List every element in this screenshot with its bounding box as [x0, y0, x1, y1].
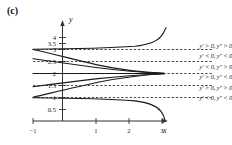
- ytick-label-0p5: 0.5: [48, 106, 57, 113]
- legend-row-2: y′ < 0, y″ < 0: [176, 51, 232, 61]
- axis-arrowheads: [60, 20, 168, 123]
- xtick-label-2: 2: [127, 127, 130, 134]
- xtick-label-neg1: −1: [29, 127, 36, 134]
- legend-row-6: y′ < 0, y″ < 0: [176, 93, 232, 103]
- y-axis-arrow: [60, 20, 64, 26]
- legend-row-5: y′ > 0, y″ > 0: [176, 83, 232, 93]
- xtick-label-1: 1: [94, 127, 97, 134]
- y-axis-label: y: [68, 15, 73, 24]
- legend-row-4: y′ > 0, y″ < 0: [176, 72, 232, 82]
- legend: y′ > 0, y″ > 0 y′ < 0, y″ < 0 y′ < 0, y″…: [176, 41, 232, 103]
- legend-row-3: y′ < 0, y″ > 0: [176, 62, 232, 72]
- figure-panel-c: (c): [0, 0, 232, 145]
- legend-row-1: y′ > 0, y″ > 0: [176, 41, 232, 51]
- ytick-label-1p5: 1.5: [48, 82, 57, 89]
- x-axis-label: x: [162, 126, 167, 135]
- x-tick-labels: −1 1 2 3: [29, 127, 164, 134]
